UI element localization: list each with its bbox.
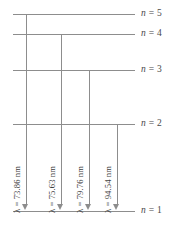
level-equals-n1: = [149,205,155,215]
energy-level-label-n5: n = 5 [141,8,162,18]
transition-arrow-3-to-1 [89,70,90,206]
energy-level-label-n1: n = 1 [141,205,162,215]
level-equals-n5: = [149,8,155,18]
level-symbol-n1: n [141,205,146,215]
wavelength-label-4-to-1: λ = 75.63 nm [47,166,57,213]
transition-arrow-2-to-1 [117,124,118,206]
energy-level-line-n3 [13,70,135,71]
transition-arrow-4-to-1 [61,34,62,206]
level-equals-n4: = [149,28,155,38]
energy-level-label-n4: n = 4 [141,28,162,38]
level-symbol-n5: n [141,8,146,18]
energy-level-line-n1 [13,211,135,212]
level-value-n2: 2 [157,118,162,128]
level-symbol-n3: n [141,64,146,74]
energy-level-line-n5 [13,14,135,15]
arrow-head-5-to-1 [22,204,28,210]
level-value-n5: 5 [157,8,162,18]
wavelength-label-3-to-1: λ = 79.76 nm [75,166,85,213]
level-value-n1: 1 [157,205,162,215]
level-symbol-n4: n [141,28,146,38]
arrow-head-2-to-1 [113,204,119,210]
level-equals-n3: = [149,64,155,74]
transition-arrow-5-to-1 [26,14,27,206]
level-equals-n2: = [149,118,155,128]
energy-level-line-n4 [13,34,135,35]
level-value-n3: 3 [157,64,162,74]
arrow-head-4-to-1 [57,204,63,210]
level-value-n4: 4 [157,28,162,38]
arrow-head-3-to-1 [85,204,91,210]
wavelength-label-2-to-1: λ = 94.54 nm [103,166,113,213]
energy-level-diagram: n = 5 n = 4 n = 3 n = 2 n = 1 λ = 73.86 … [0,0,185,226]
wavelength-label-5-to-1: λ = 73.86 nm [12,166,22,213]
energy-level-label-n3: n = 3 [141,64,162,74]
energy-level-label-n2: n = 2 [141,118,162,128]
level-symbol-n2: n [141,118,146,128]
